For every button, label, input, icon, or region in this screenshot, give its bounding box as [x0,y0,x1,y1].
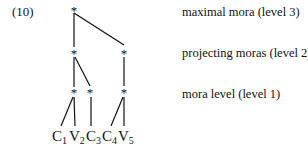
node-level1: * [71,85,78,100]
segment: C1 [52,128,67,146]
level-2-label: projecting moras (level 2) [182,46,308,61]
branch-line [61,97,73,126]
mora-tree-diagram: * * * * * * C1 V2 C3 C4 V5 [0,0,308,151]
segment: V2 [69,128,85,146]
node-level1: * [87,85,94,100]
level-1-label: mora level (level 1) [182,87,280,102]
node-level2: * [121,46,128,61]
node-level1: * [121,85,128,100]
node-level3: * [71,3,78,18]
branch-line [111,97,123,126]
node-level2: * [71,46,78,61]
segment: V5 [118,128,134,146]
branch-line [74,13,124,45]
level-3-label: maximal mora (level 3) [182,5,300,20]
segment: C3 [86,128,101,146]
branch-line [74,97,75,126]
segment: C4 [102,128,117,146]
branch-line [75,57,90,86]
